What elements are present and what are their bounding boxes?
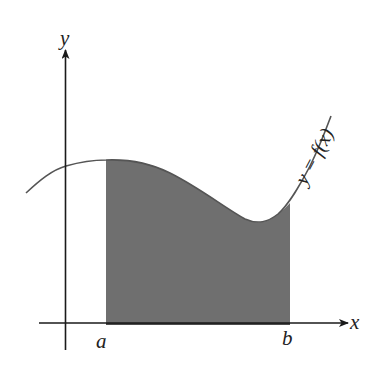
shaded-area-region (106, 160, 290, 323)
lower-bound-label-a: a (96, 331, 107, 352)
x-axis-label: x (350, 312, 359, 333)
upper-bound-label-b: b (282, 328, 293, 349)
y-axis-label: y (60, 28, 69, 49)
plot-canvas (0, 0, 376, 367)
area-under-curve-figure: y x a b y = f(x) (0, 0, 376, 367)
